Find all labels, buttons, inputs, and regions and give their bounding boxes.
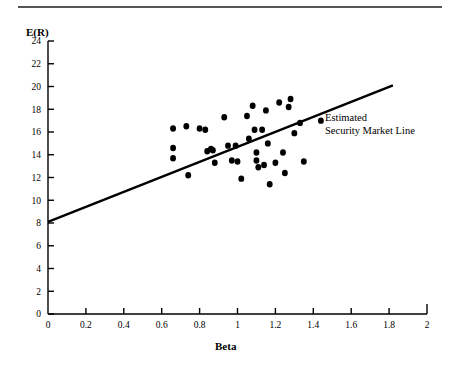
scatter-points-group bbox=[170, 96, 324, 188]
x-axis-tick-label: 0.6 bbox=[156, 320, 168, 330]
scatter-point bbox=[276, 99, 282, 105]
scatter-point bbox=[197, 125, 203, 131]
scatter-point bbox=[225, 142, 231, 148]
y-axis-tick-label: 14 bbox=[32, 150, 42, 160]
y-axis-tick-label: 24 bbox=[32, 36, 42, 46]
scatter-point bbox=[261, 162, 267, 168]
tick-labels-group: 02468101214161820222400.20.40.60.811.21.… bbox=[32, 36, 430, 330]
y-axis-tick-label: 16 bbox=[32, 127, 42, 137]
scatter-point bbox=[252, 127, 258, 133]
scatter-point bbox=[221, 114, 227, 120]
scatter-point bbox=[210, 147, 216, 153]
scatter-point bbox=[288, 96, 294, 102]
x-axis-tick-label: 1.6 bbox=[345, 320, 357, 330]
y-axis-tick-label: 22 bbox=[32, 59, 42, 69]
scatter-point bbox=[272, 159, 278, 165]
x-axis-tick-label: 0.8 bbox=[194, 320, 206, 330]
security-market-line bbox=[48, 85, 393, 222]
scatter-point bbox=[170, 155, 176, 161]
scatter-point bbox=[254, 149, 260, 155]
x-axis-tick-label: 1.2 bbox=[269, 320, 281, 330]
scatter-point bbox=[301, 158, 307, 164]
scatter-point bbox=[263, 107, 269, 113]
x-axis-tick-label: 1.8 bbox=[383, 320, 395, 330]
scatter-point bbox=[238, 175, 244, 181]
y-axis-tick-label: 10 bbox=[32, 196, 42, 206]
y-axis-tick-label: 18 bbox=[32, 105, 42, 115]
scatter-point bbox=[318, 117, 324, 123]
scatter-point bbox=[291, 130, 297, 136]
y-axis-tick-label: 20 bbox=[32, 82, 42, 92]
scatter-point bbox=[244, 113, 250, 119]
x-axis-tick-label: 2 bbox=[425, 320, 430, 330]
sml-trend-line bbox=[48, 85, 393, 222]
ticks-group bbox=[48, 41, 427, 314]
scatter-point bbox=[267, 181, 273, 187]
scatter-point bbox=[250, 103, 256, 109]
y-axis-tick-label: 12 bbox=[32, 173, 42, 183]
scatter-point bbox=[170, 145, 176, 151]
scatter-point bbox=[254, 157, 260, 163]
scatter-point bbox=[202, 127, 208, 133]
y-axis-tick-label: 2 bbox=[36, 287, 41, 297]
scatter-point bbox=[280, 149, 286, 155]
x-axis-tick-label: 0 bbox=[46, 320, 51, 330]
scatter-point bbox=[235, 158, 241, 164]
scatter-point bbox=[233, 142, 239, 148]
axes-group bbox=[48, 41, 427, 314]
scatter-point bbox=[282, 170, 288, 176]
scatter-point bbox=[259, 127, 265, 133]
scatter-point bbox=[286, 104, 292, 110]
scatter-plot: 02468101214161820222400.20.40.60.811.21.… bbox=[0, 0, 451, 370]
scatter-point bbox=[255, 164, 261, 170]
x-axis-tick-label: 1.4 bbox=[307, 320, 319, 330]
y-axis-tick-label: 0 bbox=[36, 309, 41, 319]
scatter-point bbox=[183, 123, 189, 129]
scatter-point bbox=[297, 120, 303, 126]
scatter-point bbox=[265, 140, 271, 146]
scatter-point bbox=[170, 125, 176, 131]
y-axis-tick-label: 8 bbox=[36, 218, 41, 228]
x-axis-tick-label: 0.4 bbox=[118, 320, 130, 330]
x-axis-tick-label: 0.2 bbox=[80, 320, 92, 330]
y-axis-tick-label: 4 bbox=[36, 264, 41, 274]
scatter-point bbox=[185, 172, 191, 178]
x-axis-tick-label: 1 bbox=[235, 320, 240, 330]
y-axis-tick-label: 6 bbox=[36, 241, 41, 251]
scatter-point bbox=[212, 159, 218, 165]
scatter-point bbox=[229, 157, 235, 163]
scatter-point bbox=[246, 136, 252, 142]
figure-container: E(R) Beta Estimated Security Market Line… bbox=[0, 0, 451, 370]
